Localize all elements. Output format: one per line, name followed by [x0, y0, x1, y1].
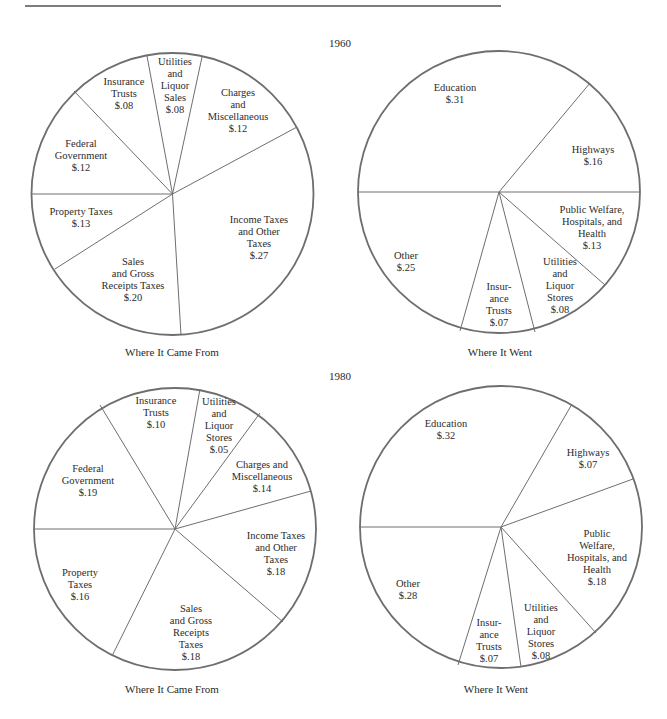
slice-label-other: Other $.28: [396, 578, 420, 602]
slice-label-utilities-liquor-stores: Utilities and Liquor Stores $.05: [202, 396, 236, 456]
slice-label-other: Other $.25: [394, 250, 418, 274]
slice-label-insurance-trusts: Insur- ance Trusts $.07: [476, 617, 502, 665]
slice-label-charges-misc: Charges and Miscellaneous $.14: [232, 459, 293, 495]
slice-label-education: Education $.31: [434, 82, 477, 106]
year-1980-heading: 1980: [329, 370, 351, 382]
slice-label-property-taxes: Property Taxes $.13: [50, 206, 113, 230]
slice-label-public-welfare: Public Welfare, Hospitals, and Health $.…: [567, 528, 627, 588]
slice-label-highways: Highways $.07: [567, 447, 610, 471]
slice-label-income-taxes: Income Taxes and Other Taxes $.18: [247, 530, 305, 578]
slice-label-insurance-trusts: Insurance Trusts $.08: [104, 76, 145, 112]
slice-label-federal-government: Federal Government $.12: [55, 138, 108, 174]
slice-label-sales-gross-receipts: Sales and Gross Receipts Taxes $.18: [170, 603, 212, 663]
slice-label-public-welfare: Public Welfare, Hospitals, and Health $.…: [560, 204, 625, 252]
slice-label-insurance-trusts: Insurance Trusts $.10: [136, 395, 177, 431]
slice-label-federal-government: Federal Government $.19: [62, 463, 115, 499]
slice-label-utilities-liquor-sales: Utilities and Liquor Sales $.08: [158, 56, 192, 116]
slice-label-education: Education $.32: [425, 418, 468, 442]
year-1960-heading: 1960: [329, 37, 351, 49]
caption-where-it-went-1980: Where It Went: [464, 683, 528, 695]
pie-charts-svg: [0, 0, 667, 719]
slice-label-utilities-liquor-stores: Utilities and Liquor Stores $.08: [524, 602, 558, 662]
slice-label-income-taxes: Income Taxes and Other Taxes $.27: [230, 214, 288, 262]
slice-label-insurance-trusts: Insur- ance Trusts $.07: [486, 281, 512, 329]
caption-where-it-came-from-1980: Where It Came From: [125, 683, 219, 695]
caption-where-it-went-1960: Where It Went: [468, 346, 532, 358]
slice-label-charges-misc: Charges and Miscellaneous $.12: [208, 87, 269, 135]
slice-label-property-taxes: Property Taxes $.16: [62, 567, 98, 603]
slice-label-sales-gross-receipts: Sales and Gross Receipts Taxes $.20: [102, 256, 165, 304]
caption-where-it-came-from-1960: Where It Came From: [125, 346, 219, 358]
slice-label-utilities-liquor-stores: Utilities and Liquor Stores $.08: [543, 256, 577, 316]
slice-label-highways: Highways $.16: [572, 144, 615, 168]
